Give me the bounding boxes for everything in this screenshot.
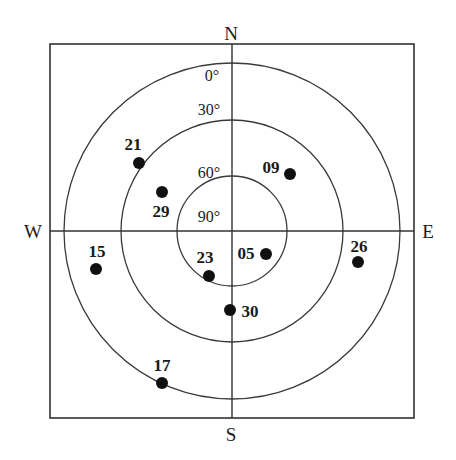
compass-label-north: N: [224, 24, 238, 43]
satellite-label-05: 05: [238, 245, 255, 262]
elevation-tick-label-0: 0°: [205, 68, 219, 84]
satellite-dot-05[interactable]: [260, 248, 272, 260]
satellite-dot-29[interactable]: [156, 186, 168, 198]
satellite-label-17: 17: [154, 357, 171, 374]
satellite-label-26: 26: [351, 238, 368, 255]
satellite-label-30: 30: [242, 303, 259, 320]
satellite-label-15: 15: [89, 243, 106, 260]
satellite-markers: [90, 157, 364, 389]
satellite-dot-23[interactable]: [203, 270, 215, 282]
satellite-dot-09[interactable]: [284, 168, 296, 180]
satellite-label-09: 09: [263, 159, 280, 176]
satellite-dot-21[interactable]: [133, 157, 145, 169]
satellite-label-29: 29: [153, 203, 170, 220]
satellite-label-23: 23: [197, 249, 214, 266]
satellite-dot-26[interactable]: [352, 256, 364, 268]
satellite-dot-17[interactable]: [156, 377, 168, 389]
skyplot-graphics: [0, 0, 456, 460]
elevation-tick-label-2: 60°: [198, 165, 220, 181]
satellite-dot-15[interactable]: [90, 263, 102, 275]
satellite-label-21: 21: [125, 136, 142, 153]
compass-label-west: W: [24, 222, 42, 241]
satellite-dot-30[interactable]: [224, 304, 236, 316]
skyplot-chart: N S W E 0°30°60°90° 210929152605233017: [0, 0, 456, 460]
elevation-tick-label-1: 30°: [198, 102, 220, 118]
compass-label-south: S: [226, 425, 237, 444]
elevation-tick-label-3: 90°: [198, 209, 220, 225]
compass-label-east: E: [422, 222, 434, 241]
